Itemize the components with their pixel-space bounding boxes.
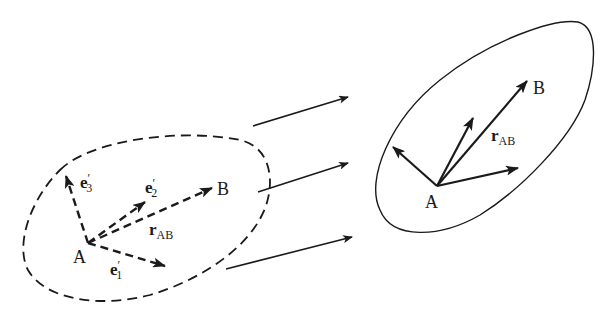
mapping-arrow-top: [253, 97, 348, 126]
e3-prime-label: e′3: [80, 171, 92, 195]
initial-body-outline: [23, 135, 270, 301]
point-a-displaced-label: A: [425, 192, 438, 212]
rigid-body-diagram: A B e′3 e′2 rAB e′1 A B rAB: [0, 0, 603, 326]
e2-vector-displaced: [437, 118, 473, 186]
displaced-body-outline: [376, 22, 594, 233]
e2-prime-label: e′2: [145, 176, 157, 200]
r-ab-displaced-label: rAB: [491, 126, 515, 148]
mapping-arrow-bottom: [226, 237, 352, 269]
mapping-arrow-middle: [258, 163, 348, 192]
point-b-initial-label: B: [217, 179, 229, 199]
e3-vector-displaced: [393, 147, 437, 186]
point-a-initial-label: A: [73, 247, 86, 267]
e1-prime-label: e′1: [110, 258, 122, 282]
r-ab-initial-label: rAB: [149, 220, 173, 242]
point-b-displaced-label: B: [533, 78, 545, 98]
e1-prime-vector: [88, 243, 165, 266]
